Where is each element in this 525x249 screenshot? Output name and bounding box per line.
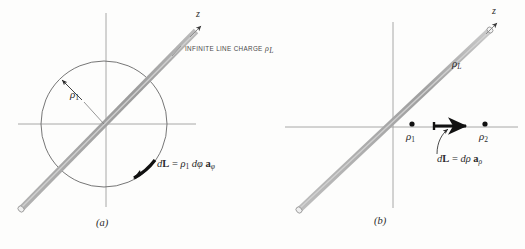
panel-b-point-rho2-dot [482,121,487,126]
panel-a-graphics [17,13,201,213]
panel-b-line-charge-sub: L [457,62,461,71]
panel-b-dl-L: L [442,153,449,164]
panel-a-radius-leader [84,102,104,124]
panel-b-dl-drho: ρ [466,153,471,164]
panel-b-z-axis-label: z [492,5,496,16]
panel-b-point-rho2-sub: 2 [484,135,488,144]
panel-a-z-axis-label: z [196,8,200,19]
panel-a-dl-dphi: φ [197,158,203,169]
panel-b-line-charge-label: ρL [452,57,461,71]
panel-b-point-rho2-label: ρ2 [479,130,488,144]
panel-a-dl-L: L [162,158,169,169]
panel-b-dl-equation: dL = dρ aρ [437,153,482,166]
panel-b-point-rho1-sub: 1 [411,135,415,144]
panel-a-dl-equation: dL = ρ1 dφ aφ [157,158,215,171]
panel-a-line-charge-caption: INFINITE LINE CHARGE ρL [185,44,274,55]
panel-a-radius-sub: 1 [75,93,79,102]
panel-b-point-rho1-dot [409,121,414,126]
panel-a-dl-rho-sub: 1 [185,162,189,171]
panel-b-graphics [285,22,518,214]
panel-a-line-charge-sub: L [269,46,274,55]
panel-b-dl-equals: = [452,153,458,164]
panel-a-line-charge-text: INFINITE LINE CHARGE [185,45,263,52]
panel-b-point-rho1-label: ρ1 [406,130,415,144]
figure-canvas [0,0,525,249]
figure-root: z INFINITE LINE CHARGE ρL ρ1 dL = ρ1 dφ … [0,0,525,249]
panel-a-radius-label: ρ1 [70,88,79,102]
panel-a-rod-highlight [22,33,195,207]
panel-a-dl-equals: = [172,158,178,169]
panel-b-dl-a-sub: ρ [479,157,483,166]
panel-b-caption: (b) [374,215,386,226]
panel-b-dl-leader [437,129,448,154]
panel-a-dl-a-sub: φ [211,162,215,171]
panel-a-caption: (a) [96,217,108,228]
